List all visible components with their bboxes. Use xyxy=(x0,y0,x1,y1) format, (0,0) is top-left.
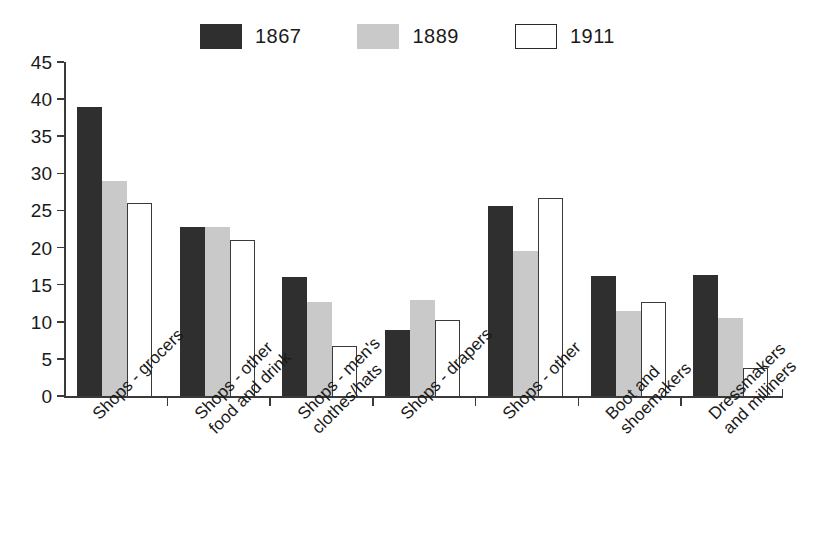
bar-group xyxy=(693,62,768,396)
bar-1867 xyxy=(282,277,307,396)
bar-group xyxy=(180,62,255,396)
y-tick-label-25: 25 xyxy=(31,201,52,220)
bar-1867 xyxy=(180,227,205,396)
legend-swatch-1911-icon xyxy=(515,24,557,49)
bar-1889 xyxy=(205,227,230,396)
y-tick-0 xyxy=(57,395,64,397)
bar-1867 xyxy=(591,276,616,396)
bar-1889 xyxy=(102,181,127,396)
y-tick-label-40: 40 xyxy=(31,90,52,109)
y-tick-label-0: 0 xyxy=(41,387,52,406)
legend-item-1889: 1889 xyxy=(357,24,459,49)
y-axis-line xyxy=(64,62,66,396)
legend-swatch-1867-icon xyxy=(200,24,242,49)
bar-1867 xyxy=(77,107,102,396)
x-axis-end-cap xyxy=(782,389,784,397)
legend-swatch-1889-icon xyxy=(357,24,399,49)
legend-item-1867: 1867 xyxy=(200,24,302,49)
legend-label-1911: 1911 xyxy=(570,25,615,48)
legend-label-1867: 1867 xyxy=(255,25,302,48)
y-tick-10 xyxy=(57,321,64,323)
legend-item-1911: 1911 xyxy=(515,24,615,49)
y-tick-30 xyxy=(57,173,64,175)
y-tick-20 xyxy=(57,247,64,249)
y-tick-label-15: 15 xyxy=(31,275,52,294)
y-tick-label-35: 35 xyxy=(31,127,52,146)
chart-legend: 1867 1889 1911 xyxy=(0,24,815,49)
x-axis-category-labels: Shops - grocersShops - other food and dr… xyxy=(0,404,815,540)
y-tick-label-20: 20 xyxy=(31,238,52,257)
legend-label-1889: 1889 xyxy=(412,25,459,48)
bar-group xyxy=(77,62,152,396)
y-tick-15 xyxy=(57,284,64,286)
y-tick-5 xyxy=(57,358,64,360)
bar-1867 xyxy=(693,275,718,396)
bar-1867 xyxy=(488,206,513,396)
y-tick-35 xyxy=(57,135,64,137)
bar-group xyxy=(282,62,357,396)
y-tick-45 xyxy=(57,61,64,63)
y-tick-label-5: 5 xyxy=(41,349,52,368)
bar-group xyxy=(385,62,460,396)
bar-group xyxy=(488,62,563,396)
y-tick-25 xyxy=(57,210,64,212)
bar-chart: 1867 1889 1911 051015202530354045 Shops … xyxy=(0,0,815,540)
bar-group xyxy=(591,62,666,396)
y-tick-label-45: 45 xyxy=(31,53,52,72)
y-tick-40 xyxy=(57,98,64,100)
y-tick-label-10: 10 xyxy=(31,312,52,331)
y-tick-label-30: 30 xyxy=(31,164,52,183)
